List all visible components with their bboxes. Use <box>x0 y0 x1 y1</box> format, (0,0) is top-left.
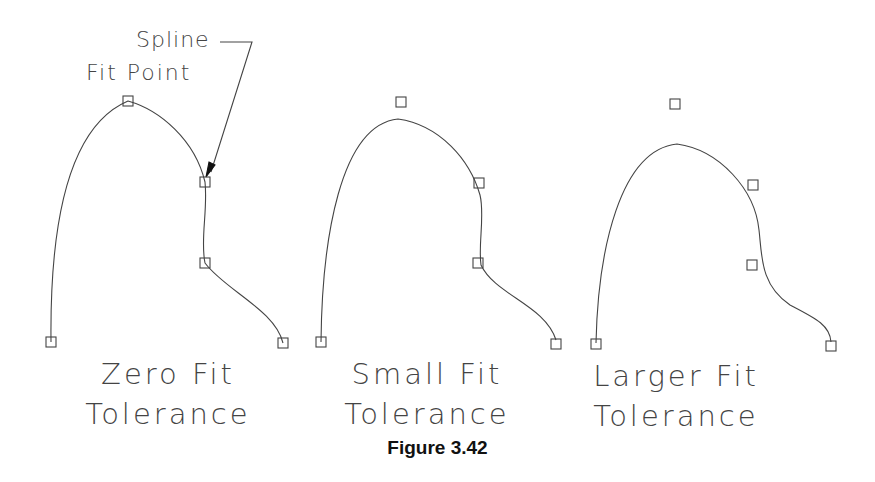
figure-caption: Figure 3.42 <box>0 437 875 459</box>
fit-point-marker <box>670 99 680 109</box>
panel-label-zero-line1: Zero Fit <box>101 357 235 391</box>
callout-label-line1: Spline <box>136 27 210 52</box>
panel-label-larger-line2: Tolerance <box>593 399 758 433</box>
fit-point-marker <box>551 339 561 349</box>
fit-point-marker <box>748 180 758 190</box>
panel-label-larger-line1: Larger Fit <box>593 359 759 393</box>
spline-curve <box>51 101 283 343</box>
callout-label-line2: Fit Point <box>86 60 191 85</box>
callout-leader-arrow <box>206 42 252 177</box>
panel-label-small-line1: Small Fit <box>352 357 503 391</box>
panel-label-zero-line2: Tolerance <box>85 397 250 431</box>
spline-curve <box>321 119 556 342</box>
fit-point-marker <box>826 341 836 351</box>
panel-label-small-line2: Tolerance <box>344 397 509 431</box>
fit-point-marker <box>396 97 406 107</box>
fit-point-marker <box>747 260 757 270</box>
spline-curve <box>596 144 831 343</box>
spline-panel-larger <box>591 99 836 351</box>
spline-diagram: Spline Fit Point Zero Fit Tolerance Smal… <box>0 0 875 482</box>
spline-panel-small <box>316 97 561 349</box>
spline-panel-zero <box>46 96 288 348</box>
